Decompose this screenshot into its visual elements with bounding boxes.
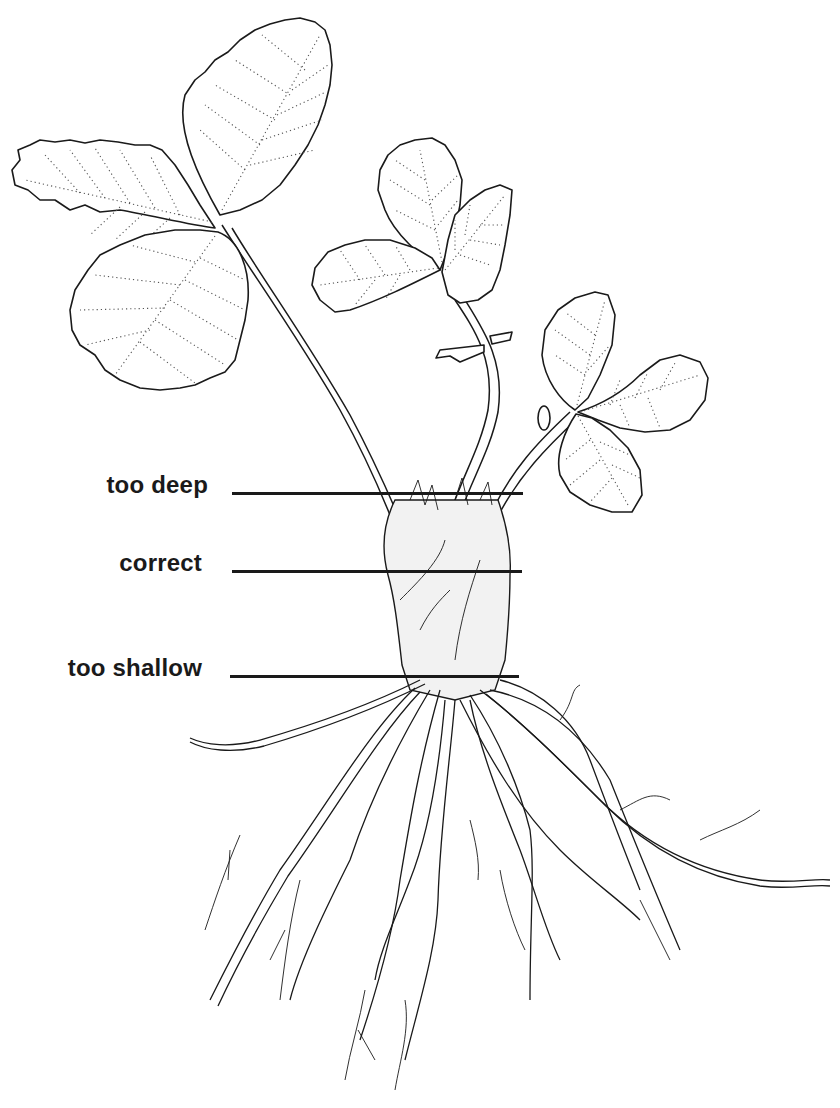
- middle-leaf-cluster: [312, 138, 512, 520]
- roots: [190, 680, 830, 1090]
- depth-line-too-shallow: [230, 675, 519, 678]
- right-leaf-cluster: [488, 292, 708, 520]
- crown: [384, 478, 510, 700]
- depth-line-correct: [232, 570, 522, 573]
- depth-label-correct: correct: [80, 549, 202, 577]
- depth-line-too-deep: [232, 492, 523, 495]
- depth-label-too-shallow: too shallow: [40, 654, 202, 682]
- strawberry-planting-diagram: too deep correct too shallow: [0, 0, 840, 1108]
- depth-label-too-deep: too deep: [80, 471, 208, 499]
